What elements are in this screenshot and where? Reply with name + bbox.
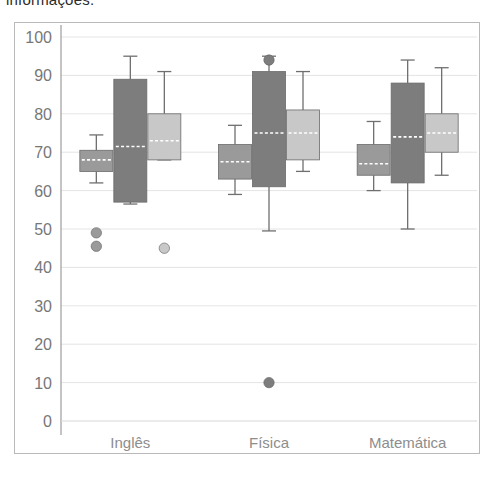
x-axis-category-label: Física [249, 434, 290, 451]
y-axis-tick-label: 60 [34, 183, 52, 200]
caption-text: informações. [6, 0, 94, 8]
y-axis-tick-label: 0 [43, 413, 52, 430]
outlier-point [264, 55, 274, 65]
boxplot-box [219, 125, 252, 194]
x-axis-category-label: Matemática [369, 434, 447, 451]
boxplot-box [114, 56, 147, 204]
x-axis-category-labels: InglêsFísicaMatemática [110, 434, 447, 451]
boxplot-box [253, 56, 286, 231]
y-axis-tick-label: 20 [34, 336, 52, 353]
outlier-point [91, 228, 101, 238]
boxplot-chart: 0102030405060708090100 InglêsFísicaMatem… [15, 23, 479, 453]
y-axis-tick-label: 30 [34, 298, 52, 315]
y-axis-tick-label: 70 [34, 144, 52, 161]
y-axis-tick-label: 90 [34, 67, 52, 84]
caption-clipped-line: informações. [0, 0, 488, 14]
box-body [80, 150, 113, 171]
box-body [357, 145, 390, 176]
boxplot-box [391, 60, 424, 229]
box-body [391, 83, 424, 183]
boxplot-box [357, 121, 390, 190]
y-axis-tick-label: 80 [34, 106, 52, 123]
box-body [148, 114, 181, 160]
box-body [253, 72, 286, 187]
y-axis-tick-label: 50 [34, 221, 52, 238]
chart-frame: 0102030405060708090100 InglêsFísicaMatem… [14, 22, 480, 454]
box-body [287, 110, 320, 160]
outlier-point [91, 241, 101, 251]
boxplot-box [287, 72, 320, 172]
outlier-point [264, 377, 274, 387]
outlier-point [159, 243, 169, 253]
y-axis-tick-label: 10 [34, 375, 52, 392]
boxplot-series-group [80, 55, 458, 388]
y-axis-tick-label: 40 [34, 259, 52, 276]
x-axis-category-label: Inglês [110, 434, 150, 451]
y-axis-tick-label: 100 [25, 29, 52, 46]
boxplot-box [425, 68, 458, 176]
boxplot-box [80, 135, 113, 183]
boxplot-box [148, 72, 181, 160]
box-body [114, 79, 147, 202]
y-axis-tick-labels: 0102030405060708090100 [25, 29, 52, 430]
